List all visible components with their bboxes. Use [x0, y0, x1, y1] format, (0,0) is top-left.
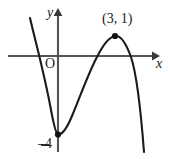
cubic-curve-path: [30, 18, 144, 152]
y-intercept-value-label: –4: [38, 137, 52, 151]
cubic-graph-canvas: [0, 0, 171, 159]
origin-label: O: [45, 57, 55, 71]
x-axis: [8, 52, 160, 61]
local-minimum-point-marker: [55, 131, 61, 137]
graph-figure: y x O (3, 1) –4: [0, 0, 171, 159]
y-axis-label: y: [47, 6, 53, 20]
local-maximum-coordinate-label: (3, 1): [102, 12, 132, 26]
x-axis-label: x: [156, 57, 162, 71]
y-axis-arrowhead-icon: [54, 8, 63, 16]
local-maximum-point-marker: [112, 33, 118, 39]
